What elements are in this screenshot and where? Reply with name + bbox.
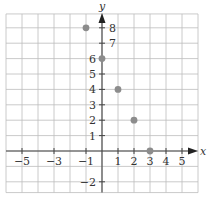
ticks: −5−3−11234587654321−2 <box>14 22 186 189</box>
scatter-plot: −5−3−11234587654321−2 x y <box>0 0 209 208</box>
x-tick-label: 3 <box>147 155 154 168</box>
x-tick-label: 5 <box>179 155 186 168</box>
y-tick-label: 5 <box>89 68 96 81</box>
x-axis-arrow-icon <box>188 148 198 155</box>
x-tick-label: 1 <box>115 155 122 168</box>
data-point <box>83 24 90 31</box>
data-point <box>99 55 106 62</box>
y-tick-label: −2 <box>80 176 96 189</box>
data-point <box>115 86 122 93</box>
data-point <box>131 117 138 124</box>
x-tick-label: 2 <box>131 155 138 168</box>
x-tick-label: 4 <box>163 155 170 168</box>
y-axis-label: y <box>98 0 106 13</box>
data-point <box>147 148 154 155</box>
x-tick-label: −5 <box>14 155 30 168</box>
y-tick-label: 2 <box>89 114 96 127</box>
y-tick-label: 1 <box>89 130 96 143</box>
y-tick-label: 6 <box>89 53 96 66</box>
y-tick-label: 3 <box>89 99 96 112</box>
y-axis-arrow-icon <box>99 13 106 23</box>
x-tick-label: −3 <box>46 155 62 168</box>
y-tick-label: 4 <box>89 83 96 96</box>
y-tick-label: 7 <box>109 37 116 50</box>
x-tick-label: −1 <box>78 155 94 168</box>
x-axis-label: x <box>200 145 207 158</box>
y-tick-label: 8 <box>109 22 116 35</box>
